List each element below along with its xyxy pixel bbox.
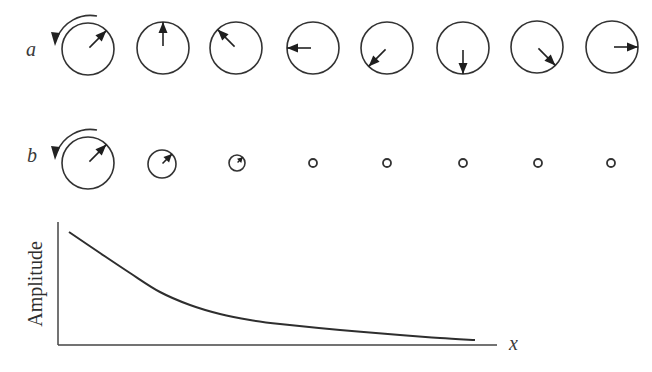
amplitude-curve xyxy=(69,232,475,340)
phasor-circle xyxy=(534,159,542,167)
rotation-arrow-icon-a xyxy=(51,15,97,46)
phasor-circle xyxy=(459,159,467,167)
phasor-circle xyxy=(229,155,245,171)
phasor-circle xyxy=(383,159,391,167)
row-b-label: b xyxy=(27,144,37,166)
phasor-circle xyxy=(62,137,114,189)
phasor-circle xyxy=(437,22,489,74)
phasor-circle xyxy=(361,22,413,74)
phasor-circle xyxy=(607,159,615,167)
phasor-circle xyxy=(137,22,189,74)
phasor-circle xyxy=(148,150,176,178)
phasor-circle xyxy=(62,23,114,75)
damped-rotation-figure: a b Amplitude x xyxy=(0,0,652,372)
row-a-label: a xyxy=(26,38,36,60)
rotation-arrow-icon-b xyxy=(51,129,97,160)
x-axis-label: x xyxy=(508,332,518,354)
amplitude-chart: Amplitude x xyxy=(24,222,518,354)
phasor-circle xyxy=(309,159,317,167)
row-b-phasors xyxy=(62,137,615,189)
phasor-circle xyxy=(586,21,638,73)
row-a-phasors xyxy=(62,21,638,75)
phasor-circle xyxy=(287,22,339,74)
phasor-circle xyxy=(511,21,563,73)
y-axis-label: Amplitude xyxy=(24,241,47,327)
phasor-circle xyxy=(210,22,262,74)
